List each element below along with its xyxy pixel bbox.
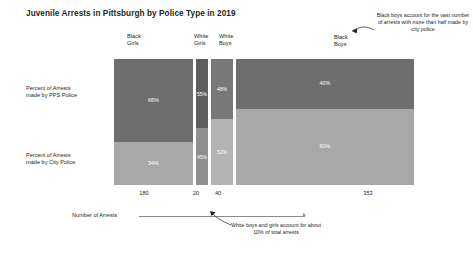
x-axis-label: Number of Arrests bbox=[72, 212, 117, 218]
chart-container: Juvenile Arrests in Pittsburgh by Police… bbox=[0, 0, 473, 258]
row-label-city-line1: Percent of Arrests bbox=[26, 152, 75, 159]
page-title: Juvenile Arrests in Pittsburgh by Police… bbox=[26, 9, 236, 18]
mosaic-value-white-boys-pps: 48% bbox=[211, 87, 233, 92]
x-axis-arrow-icon bbox=[303, 213, 306, 217]
mosaic-value-white-boys-city: 52% bbox=[211, 150, 233, 155]
column-header-white-boys-line2: Boys bbox=[219, 40, 233, 47]
mosaic-value-white-girls-pps: 55% bbox=[196, 91, 208, 96]
mosaic-segment-white-boys-pps[interactable]: 48% bbox=[211, 59, 233, 119]
x-tick-white-boys: 40 bbox=[207, 190, 229, 196]
plot-area: 66% 34% 55% 45% 48% 52% bbox=[114, 59, 414, 185]
column-header-black-boys: Black Boys bbox=[334, 34, 348, 48]
x-tick-black-boys: 353 bbox=[355, 190, 381, 196]
column-header-black-girls: Black Girls bbox=[127, 33, 141, 47]
mosaic-segment-black-girls-city[interactable]: 34% bbox=[114, 142, 193, 185]
mosaic-value-black-girls-city: 34% bbox=[114, 161, 193, 166]
mosaic-segment-black-girls-pps[interactable]: 66% bbox=[114, 59, 193, 142]
mosaic-value-black-boys-city: 60% bbox=[236, 145, 414, 150]
column-header-white-boys: White Boys bbox=[219, 33, 233, 47]
column-header-white-boys-line1: White bbox=[219, 33, 233, 40]
mosaic-segment-white-boys-city[interactable]: 52% bbox=[211, 119, 233, 185]
mosaic-column-white-girls[interactable]: 55% 45% bbox=[196, 59, 208, 185]
x-tick-black-girls: 180 bbox=[133, 190, 155, 196]
mosaic-column-white-boys[interactable]: 48% 52% bbox=[211, 59, 233, 185]
column-header-black-girls-line2: Girls bbox=[127, 40, 141, 47]
annotation-white-share: White boys and girls account for about 1… bbox=[228, 222, 324, 236]
column-header-black-girls-line1: Black bbox=[127, 33, 141, 40]
x-tick-white-girls: 20 bbox=[185, 190, 207, 196]
mosaic-column-black-boys[interactable]: 40% 60% bbox=[236, 59, 414, 185]
column-header-white-girls-line2: Girls bbox=[194, 40, 208, 47]
row-label-pps-line2: made by PPS Police bbox=[26, 92, 77, 99]
column-header-black-boys-line2: Boys bbox=[334, 41, 348, 48]
mosaic-value-black-girls-pps: 66% bbox=[114, 98, 193, 103]
x-axis-rule bbox=[139, 216, 305, 217]
row-label-pps-police: Percent of Arrests made by PPS Police bbox=[26, 85, 77, 100]
row-label-city-line2: made by City Police bbox=[26, 159, 75, 166]
mosaic-segment-white-girls-pps[interactable]: 55% bbox=[196, 59, 208, 128]
mosaic-segment-white-girls-city[interactable]: 45% bbox=[196, 128, 208, 185]
mosaic-segment-black-boys-city[interactable]: 60% bbox=[236, 109, 414, 185]
mosaic-column-black-girls[interactable]: 66% 34% bbox=[114, 59, 193, 185]
annotation-black-boys: Black boys account for the vast number o… bbox=[375, 12, 471, 34]
row-label-pps-line1: Percent of Arrests bbox=[26, 85, 77, 92]
annotation-arrow-top-path bbox=[352, 27, 374, 31]
column-header-white-girls: White Girls bbox=[194, 33, 208, 47]
mosaic-segment-black-boys-pps[interactable]: 40% bbox=[236, 59, 414, 109]
column-header-white-girls-line1: White bbox=[194, 33, 208, 40]
annotation-arrow-top-head-icon bbox=[352, 29, 357, 34]
column-header-black-boys-line1: Black bbox=[334, 34, 348, 41]
mosaic-value-black-boys-pps: 40% bbox=[236, 81, 414, 86]
mosaic-value-white-girls-city: 45% bbox=[196, 154, 208, 159]
row-label-city-police: Percent of Arrests made by City Police bbox=[26, 152, 75, 167]
